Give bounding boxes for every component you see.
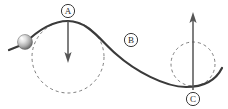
label-b-text: B — [128, 35, 134, 45]
ball-highlight — [20, 36, 26, 42]
label-a: A — [61, 4, 74, 17]
ball-sphere — [18, 35, 33, 50]
curved-track — [9, 21, 222, 87]
acceleration-arrow-a-down — [64, 21, 71, 63]
acceleration-arrow-c-up — [189, 12, 196, 90]
label-b: B — [124, 33, 137, 46]
ball — [18, 35, 33, 50]
label-a-text: A — [65, 6, 72, 16]
label-c: C — [186, 92, 199, 105]
figure-root: A B C — [0, 0, 228, 109]
track-diagram: A B C — [0, 0, 228, 109]
label-c-text: C — [190, 94, 196, 104]
